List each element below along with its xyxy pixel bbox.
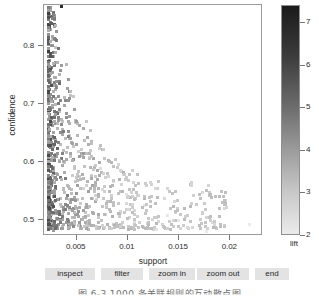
- scatter-point: [59, 131, 62, 134]
- scatter-point: [190, 202, 193, 205]
- scatter-point: [53, 120, 56, 123]
- scatter-point: [192, 194, 195, 197]
- scatter-point: [88, 222, 91, 225]
- scatter-point: [66, 204, 69, 207]
- scatter-point: [75, 143, 78, 146]
- scatter-point: [118, 178, 121, 181]
- toolbar-button-filter[interactable]: filter: [101, 268, 143, 280]
- scatter-point: [47, 12, 50, 15]
- scatter-point: [136, 173, 139, 176]
- scatter-point: [201, 191, 204, 194]
- scatter-point: [65, 116, 68, 119]
- x-tick-label: 0.005: [56, 242, 96, 251]
- lift-tick-mark: [300, 65, 305, 66]
- scatter-point: [132, 227, 135, 230]
- scatter-point: [127, 179, 130, 182]
- scatter-point: [68, 115, 71, 118]
- scatter-point: [70, 198, 73, 201]
- scatter-point: [122, 226, 125, 229]
- lift-tick-label: 3: [306, 187, 310, 196]
- scatter-point: [63, 171, 66, 174]
- scatter-point: [85, 152, 88, 155]
- x-tick-mark: [178, 235, 179, 240]
- scatter-point: [68, 122, 71, 125]
- toolbar-button-inspect[interactable]: inspect: [45, 268, 95, 280]
- scatter-point: [149, 200, 152, 203]
- scatter-point: [51, 167, 54, 170]
- scatter-point: [65, 158, 68, 161]
- scatter-point: [78, 206, 81, 209]
- scatter-point: [113, 226, 116, 229]
- scatter-plot-panel[interactable]: [43, 4, 262, 235]
- scatter-point: [71, 142, 74, 145]
- scatter-point: [60, 178, 63, 181]
- scatter-point: [105, 202, 108, 205]
- scatter-point: [154, 187, 157, 190]
- scatter-point: [132, 188, 135, 191]
- scatter-point: [112, 179, 115, 182]
- scatter-point: [69, 137, 72, 140]
- scatter-point: [224, 191, 227, 194]
- scatter-point: [128, 173, 131, 176]
- scatter-point: [76, 173, 79, 176]
- scatter-point: [53, 17, 56, 20]
- scatter-point: [177, 219, 180, 222]
- scatter-point: [57, 47, 60, 50]
- scatter-point: [195, 203, 198, 206]
- toolbar-button-end[interactable]: end: [255, 268, 289, 280]
- scatter-point: [156, 196, 159, 199]
- scatter-point: [172, 219, 175, 222]
- scatter-point: [176, 209, 179, 212]
- scatter-point: [49, 177, 52, 180]
- scatter-point: [150, 195, 153, 198]
- scatter-point: [75, 176, 78, 179]
- scatter-point: [145, 184, 148, 187]
- toolbar-button-zoom-in[interactable]: zoom in: [149, 268, 195, 280]
- scatter-point: [53, 159, 56, 162]
- scatter-point: [47, 196, 50, 199]
- scatter-point: [90, 197, 93, 200]
- scatter-point: [119, 225, 122, 228]
- scatter-point: [51, 156, 54, 159]
- x-tick-mark: [76, 235, 77, 240]
- scatter-point: [141, 206, 144, 209]
- scatter-point: [52, 131, 55, 134]
- scatter-point: [95, 198, 98, 201]
- y-axis-label: confidence: [7, 80, 17, 150]
- scatter-point: [79, 227, 82, 230]
- toolbar-button-zoom-out[interactable]: zoom out: [197, 268, 249, 280]
- scatter-point: [47, 26, 50, 29]
- scatter-point: [221, 201, 224, 204]
- scatter-point: [61, 164, 64, 167]
- scatter-point: [179, 213, 182, 216]
- scatter-point: [47, 63, 50, 66]
- scatter-point: [48, 203, 51, 206]
- scatter-point: [101, 205, 104, 208]
- scatter-point: [163, 226, 166, 229]
- scatter-point: [55, 30, 58, 33]
- scatter-point: [83, 139, 86, 142]
- scatter-point: [82, 152, 85, 155]
- scatter-point: [91, 184, 94, 187]
- lift-tick-label: 6: [306, 60, 310, 69]
- scatter-point: [49, 40, 52, 43]
- scatter-point: [60, 118, 63, 121]
- scatter-point: [65, 197, 68, 200]
- scatter-point: [147, 217, 150, 220]
- scatter-point: [84, 221, 87, 224]
- scatter-point: [52, 62, 55, 65]
- scatter-point: [201, 211, 204, 214]
- scatter-point: [83, 165, 86, 168]
- scatter-point: [80, 148, 83, 151]
- scatter-point: [104, 176, 107, 179]
- scatter-point: [90, 142, 93, 145]
- scatter-point: [157, 215, 160, 218]
- scatter-point: [53, 189, 56, 192]
- scatter-point: [207, 184, 210, 187]
- scatter-point: [58, 82, 61, 85]
- scatter-point: [50, 100, 53, 103]
- scatter-point: [71, 209, 74, 212]
- scatter-point: [85, 120, 88, 123]
- scatter-point: [78, 124, 81, 127]
- scatter-point: [108, 160, 111, 163]
